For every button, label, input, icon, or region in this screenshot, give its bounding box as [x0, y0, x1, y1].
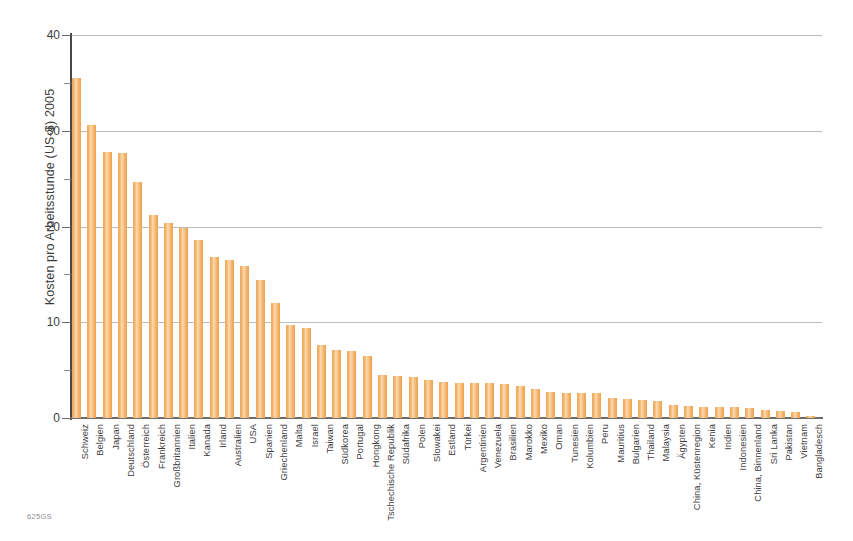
- bar: [256, 280, 265, 418]
- x-axis-tick-label: Indien: [723, 424, 733, 450]
- x-axis-tick-label: Malaysia: [661, 424, 671, 461]
- x-axis-tick-label: Tunesien: [570, 424, 580, 463]
- x-axis-tick-label: Mexiko: [539, 424, 549, 454]
- y-axis-tick: [62, 35, 71, 36]
- y-axis-tick: [62, 322, 71, 323]
- bar: [577, 393, 586, 418]
- bar: [653, 401, 662, 418]
- x-axis-tick-label: Tschechische Republik: [386, 424, 396, 521]
- bar: [409, 377, 418, 418]
- x-axis-tick-label: Thailand: [646, 424, 656, 460]
- x-axis-tick-label: Indonesien: [738, 424, 748, 471]
- x-axis-tick-label: Kanada: [202, 424, 212, 457]
- y-axis-tick: [62, 131, 71, 132]
- y-axis-tick-label: 30: [24, 124, 60, 138]
- bar: [393, 376, 402, 418]
- x-axis-tick-label: China, Küstenregion: [692, 424, 702, 510]
- bar: [332, 350, 341, 418]
- bar: [87, 125, 96, 418]
- x-axis-tick-label: Irland: [218, 424, 228, 448]
- bar: [500, 384, 509, 418]
- x-axis-tick-label: Italien: [187, 424, 197, 450]
- bar: [485, 383, 494, 418]
- x-axis-tick-label: Großbritannien: [172, 424, 182, 487]
- x-axis-labels: SchweizBelgienJapanDeutschlandÖsterreich…: [72, 424, 832, 529]
- bar: [363, 356, 372, 418]
- bar: [164, 223, 173, 418]
- x-axis-tick-label: Brasilien: [508, 424, 518, 461]
- bar: [669, 405, 678, 418]
- bar: [347, 351, 356, 418]
- bar: [592, 393, 601, 418]
- bar: [149, 215, 158, 418]
- x-axis-tick-label: Oman: [554, 424, 564, 450]
- plot-area: [72, 35, 822, 418]
- x-axis-tick-label: Venezuela: [493, 424, 503, 468]
- bar: [240, 266, 249, 418]
- x-axis-tick-label: Peru: [600, 424, 610, 444]
- x-axis-tick-label: USA: [248, 424, 258, 443]
- bar: [439, 382, 448, 418]
- x-axis-tick-label: Kolumbien: [585, 424, 595, 469]
- bar: [378, 375, 387, 418]
- x-axis-tick-label: Bangladesch: [814, 424, 824, 479]
- bar: [684, 406, 693, 418]
- y-axis-tick-label: 40: [24, 28, 60, 42]
- source-code-label: 625GS: [27, 512, 52, 521]
- bar: [776, 411, 785, 418]
- bar: [72, 78, 81, 418]
- bar: [271, 303, 280, 418]
- x-axis-tick-label: Portugal: [355, 424, 365, 459]
- x-axis-tick-label: Kenia: [707, 424, 717, 448]
- bar: [623, 399, 632, 418]
- bar: [791, 412, 800, 418]
- bar: [761, 410, 770, 418]
- x-axis-tick-label: Argentinien: [478, 424, 488, 472]
- x-axis-tick-label: Griechenland: [279, 424, 289, 481]
- bar: [531, 389, 540, 418]
- x-axis-tick-label: Japan: [111, 424, 121, 450]
- x-axis-tick-label: Spanien: [264, 424, 274, 459]
- x-axis-tick-label: Frankreich: [157, 424, 167, 469]
- x-axis-tick-label: Vietnam: [799, 424, 809, 459]
- bar: [806, 416, 815, 418]
- x-axis-tick-label: Österreich: [141, 424, 151, 468]
- x-axis-tick-label: Slowakei: [432, 424, 442, 462]
- bar: [562, 393, 571, 418]
- bar: [699, 407, 708, 418]
- y-axis-tick: [62, 418, 71, 419]
- x-axis-tick-label: Sri Lanka: [769, 424, 779, 464]
- bar: [118, 153, 127, 418]
- x-axis-tick-label: Türkei: [463, 424, 473, 450]
- y-axis-minor-tick: [64, 83, 71, 84]
- y-axis-tick-label: 0: [24, 411, 60, 425]
- x-axis-tick-label: China, Binnenland: [753, 424, 763, 502]
- x-axis-tick-label: Schweiz: [80, 424, 90, 459]
- x-axis-tick-label: Ägypten: [677, 424, 687, 459]
- x-axis-tick-label: Polen: [417, 424, 427, 448]
- x-axis-tick-label: Pakistan: [784, 424, 794, 460]
- bar: [608, 398, 617, 418]
- x-axis-tick-label: Israel: [310, 424, 320, 447]
- bar: [745, 408, 754, 418]
- bar: [317, 345, 326, 418]
- y-axis-minor-tick: [64, 274, 71, 275]
- gridline: [72, 227, 822, 228]
- bar: [133, 182, 142, 418]
- x-axis-tick-label: Bulgarien: [631, 424, 641, 464]
- x-axis-tick-label: Mauritius: [616, 424, 626, 463]
- y-axis-tick: [62, 227, 71, 228]
- bar: [194, 240, 203, 418]
- labor-cost-bar-chart: Kosten pro Arbeitsstunde (US-$) 2005 010…: [0, 0, 853, 541]
- x-axis-tick-label: Taiwan: [325, 424, 335, 454]
- x-axis-tick-label: Südafrika: [401, 424, 411, 464]
- bar: [638, 400, 647, 418]
- y-axis-tick-label: 20: [24, 220, 60, 234]
- y-axis-title: Kosten pro Arbeitsstunde (US-$) 2005: [43, 0, 57, 397]
- gridline: [72, 131, 822, 132]
- bar: [103, 152, 112, 418]
- x-axis-tick-label: Malta: [294, 424, 304, 447]
- x-axis-tick-label: Australien: [233, 424, 243, 466]
- bar: [455, 383, 464, 418]
- bar: [470, 383, 479, 418]
